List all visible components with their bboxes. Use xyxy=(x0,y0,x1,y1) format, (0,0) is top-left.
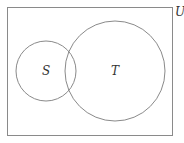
universe-rectangle xyxy=(8,8,173,136)
set-t-label: T xyxy=(111,64,120,78)
universe-label: U xyxy=(175,5,184,19)
venn-diagram: U S T xyxy=(0,0,184,143)
set-s-label: S xyxy=(42,64,50,78)
